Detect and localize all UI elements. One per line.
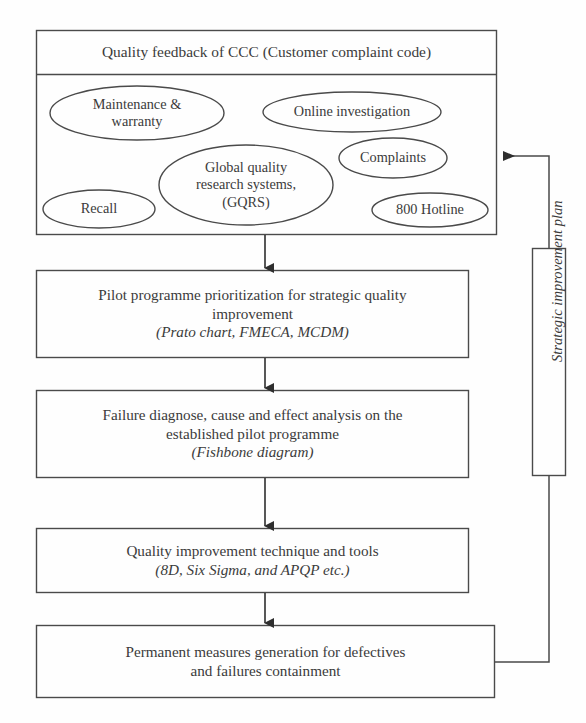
process-box-outline-0 <box>37 271 469 358</box>
process-box-outline-3 <box>37 626 495 698</box>
source-ellipse-online-investigation <box>263 92 441 132</box>
flowchart-canvas: Quality feedback of CCC (Customer compla… <box>0 0 586 723</box>
feedback-loop-path-lower <box>494 475 549 662</box>
top-container-outline <box>37 31 497 235</box>
feedback-loop-path-upper <box>504 156 549 248</box>
source-ellipse-maintenance-warranty <box>50 86 224 140</box>
source-ellipse-recall <box>43 190 155 228</box>
source-ellipse-complaints <box>339 138 447 178</box>
source-ellipse-hotline-800 <box>372 193 488 227</box>
process-box-outline-2 <box>37 529 469 593</box>
flowchart-vector-layer <box>0 0 586 723</box>
process-box-outline-1 <box>37 391 469 478</box>
source-ellipse-global-quality-research-systems <box>159 145 333 225</box>
